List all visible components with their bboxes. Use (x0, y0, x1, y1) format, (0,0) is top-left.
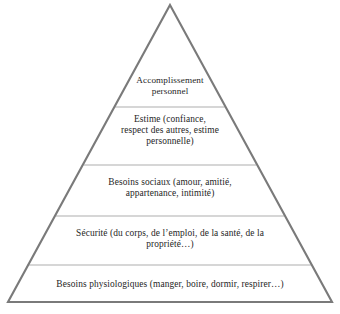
pyramid-level-besoins-physiologiques: Besoins physiologiques (manger, boire, d… (14, 279, 326, 290)
pyramid-level-accomplissement-personnel: Accomplissement personnel (95, 75, 245, 96)
pyramid-level-besoins-sociaux: Besoins sociaux (amour, amitié, apparten… (58, 177, 282, 199)
maslow-pyramid-diagram: Accomplissement personnel Estime (confia… (0, 0, 340, 314)
pyramid-level-estime: Estime (confiance, respect des autres, e… (78, 114, 262, 147)
pyramid-level-securite: Sécurité (du corps, de l’emploi, de la s… (32, 228, 308, 250)
pyramid-level-labels: Accomplissement personnel Estime (confia… (0, 0, 340, 314)
